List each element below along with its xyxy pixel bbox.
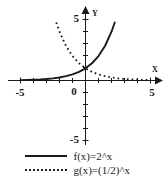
- y-axis-label: Y: [92, 9, 98, 18]
- dotted-line-key-icon: [25, 165, 67, 175]
- curve-g-dotted: [56, 22, 150, 80]
- y-axis-min-tick-label: -5: [70, 133, 80, 145]
- origin-tick-label: 0: [71, 85, 77, 97]
- chart-legend: f(x)=2^x g(x)=(1/2)^x: [0, 150, 167, 176]
- y-axis-arrowhead-icon: [82, 6, 90, 14]
- legend-item-f: f(x)=2^x: [25, 150, 143, 162]
- x-axis-label: X: [152, 65, 158, 74]
- x-axis-arrowhead-icon: [155, 77, 163, 85]
- legend-label-g: g(x)=(1/2)^x: [74, 164, 131, 176]
- curve-f-solid: [21, 22, 115, 80]
- exponential-functions-figure: 5 -5 0 -5 5 Y X f(x)=2^x g(x)=(1/2)^x: [0, 0, 167, 187]
- legend-label-f: f(x)=2^x: [74, 150, 113, 162]
- x-axis-max-tick-label: 5: [149, 86, 155, 98]
- y-axis-max-tick-label: 5: [74, 12, 80, 24]
- x-axis-min-tick-label: -5: [15, 86, 25, 98]
- solid-line-key-icon: [25, 151, 67, 161]
- legend-item-g: g(x)=(1/2)^x: [25, 164, 143, 176]
